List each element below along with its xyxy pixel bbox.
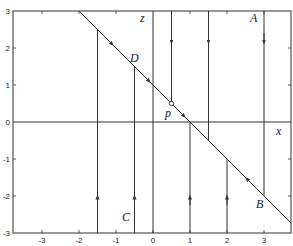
y-tick-label: 2 (6, 44, 11, 53)
y-tick-label: -3 (3, 229, 11, 238)
label-p: p (164, 106, 171, 120)
y-tick-label: -2 (3, 192, 11, 201)
y-tick-label: 3 (6, 7, 11, 16)
x-tick-label: 2 (225, 236, 230, 245)
arrow-icon (178, 110, 184, 116)
label-C: C (122, 210, 131, 224)
x-tick-label: 3 (262, 236, 267, 245)
y-tick-label: -1 (3, 155, 11, 164)
x-tick-label: -2 (75, 236, 83, 245)
arrow-icon (247, 179, 253, 185)
z-axis-label: z (139, 11, 145, 25)
label-A: A (249, 11, 258, 25)
label-B: B (256, 197, 264, 211)
x-tick-label: 1 (188, 236, 193, 245)
arrow-icon (143, 75, 149, 81)
arrow-icon (106, 38, 112, 44)
y-tick-label: 1 (6, 81, 11, 90)
x-tick-label: -3 (38, 236, 46, 245)
x-axis-label: x (275, 124, 282, 138)
phase-portrait-figure: -3 -2 -1 0 1 2 3 3 2 1 0 -1 -2 -3 z x A … (0, 0, 293, 246)
label-D: D (129, 51, 139, 65)
y-tick-label: 0 (6, 118, 11, 127)
x-tick-label: -1 (112, 236, 120, 245)
x-tick-label: 0 (151, 236, 156, 245)
